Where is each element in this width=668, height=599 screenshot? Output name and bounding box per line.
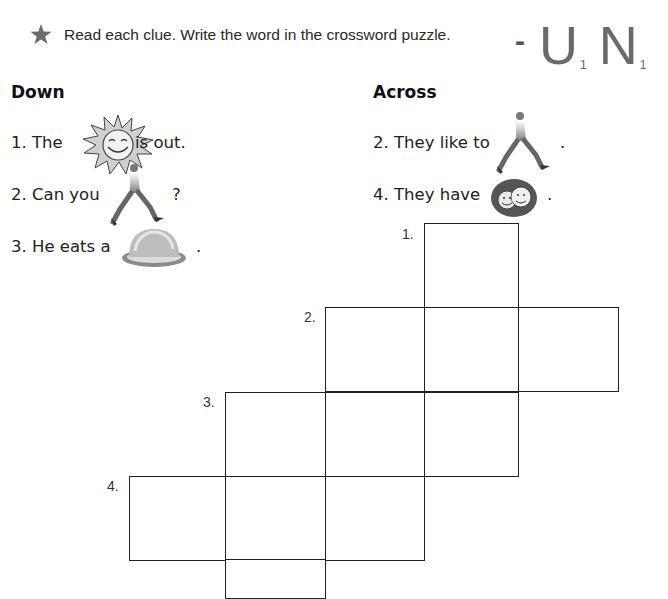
clue-number: 4. xyxy=(373,185,389,204)
across-clue-2: 2. They like to xyxy=(373,133,490,152)
crossword-cell[interactable] xyxy=(325,476,425,561)
grid-number-2: 2. xyxy=(304,309,316,325)
clue-text: They like to xyxy=(394,133,490,152)
logo-tile-letter: U xyxy=(539,18,578,72)
runner-icon xyxy=(496,110,552,176)
logo-dash: - xyxy=(515,24,525,58)
clue-text: They have xyxy=(394,185,480,204)
crossword-cell[interactable] xyxy=(424,392,519,477)
across-clue-4-end: . xyxy=(547,185,552,204)
across-clue-4: 4. They have xyxy=(373,185,480,204)
across-clue-2-end: . xyxy=(560,133,565,152)
logo-tile-letter: N xyxy=(599,18,638,72)
bun-icon xyxy=(121,227,187,269)
across-heading: Across xyxy=(373,82,437,102)
clue-text: He eats a xyxy=(32,237,111,256)
grid-number-1: 1. xyxy=(402,226,414,242)
grid-number-3: 3. xyxy=(203,394,215,410)
down-clue-2-end: ? xyxy=(172,185,181,204)
crossword-cell[interactable] xyxy=(424,307,519,392)
clue-number: 2. xyxy=(373,133,389,152)
crossword-cell[interactable] xyxy=(424,223,519,308)
grid-number-4: 4. xyxy=(107,478,119,494)
crossword-cell[interactable] xyxy=(225,392,326,477)
crossword-cell[interactable] xyxy=(325,307,425,392)
down-heading: Down xyxy=(11,82,65,102)
crossword-cell[interactable] xyxy=(518,307,619,392)
down-clue-3-end: . xyxy=(196,237,201,256)
logo-tile-score: 1 xyxy=(580,58,587,72)
crossword-cell[interactable] xyxy=(129,476,226,561)
crossword-cell[interactable] xyxy=(225,476,326,561)
clue-number: 2. xyxy=(11,185,27,204)
star-icon xyxy=(30,24,52,45)
down-clue-1: 1. The xyxy=(11,133,63,152)
crossword-cell[interactable] xyxy=(225,559,326,599)
happy-faces-icon xyxy=(490,178,538,218)
down-clue-2: 2. Can you xyxy=(11,185,100,204)
logo: - U 1 N 1 xyxy=(515,12,646,72)
instruction-text: Read each clue. Write the word in the cr… xyxy=(64,26,451,44)
clue-number: 1. xyxy=(11,133,27,152)
crossword-cell[interactable] xyxy=(325,392,425,477)
down-clue-3: 3. He eats a xyxy=(11,237,111,256)
clue-text: The xyxy=(32,133,63,152)
instruction: Read each clue. Write the word in the cr… xyxy=(30,24,451,45)
clue-number: 3. xyxy=(11,237,27,256)
clue-text: Can you xyxy=(32,185,100,204)
runner-icon xyxy=(110,162,166,228)
down-clue-1-end: is out. xyxy=(135,133,186,152)
logo-tile-score: 1 xyxy=(640,58,647,72)
